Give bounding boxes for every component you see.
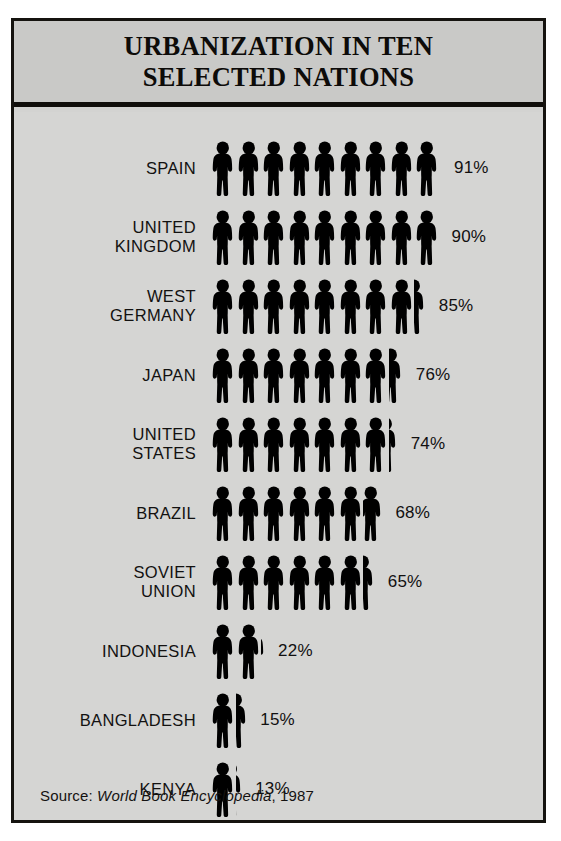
person-figure-icon [363, 347, 389, 403]
person-figure-icon [312, 554, 338, 610]
person-figure-icon [414, 209, 440, 265]
person-figure-icon [236, 623, 262, 679]
chart-row: INDONESIA22% [14, 617, 543, 685]
person-figure-icon [236, 140, 262, 196]
person-figure-icon [287, 278, 313, 334]
source-note: Source: World Book Encyclopedia, 1987 [40, 787, 314, 804]
person-figure-icon [261, 485, 287, 541]
row-figure-group [210, 416, 399, 472]
person-figure-icon [236, 209, 262, 265]
person-figure-icon [363, 140, 389, 196]
person-figure-icon [287, 485, 313, 541]
row-figure-group [210, 347, 404, 403]
person-figure-partial-icon [440, 140, 443, 196]
person-figure-icon [287, 416, 313, 472]
row-value-label: 68% [395, 503, 430, 523]
person-figure-icon [363, 278, 389, 334]
source-prefix: Source: [40, 787, 93, 804]
row-country-label: BANGLADESH [14, 711, 210, 730]
person-figure-icon [210, 623, 236, 679]
person-figure-partial-icon [236, 692, 249, 748]
row-country-label: UNITED KINGDOM [14, 218, 210, 256]
person-figure-icon [363, 416, 389, 472]
person-figure-icon [261, 140, 287, 196]
row-figure-group [210, 485, 383, 541]
chart-row: SPAIN91% [14, 134, 543, 202]
person-figure-icon [338, 140, 364, 196]
person-figure-partial-icon [414, 278, 427, 334]
person-figure-partial-icon [261, 623, 266, 679]
person-figure-icon [287, 140, 313, 196]
person-figure-icon [236, 278, 262, 334]
row-country-label: SPAIN [14, 159, 210, 178]
person-figure-icon [261, 209, 287, 265]
person-figure-icon [210, 347, 236, 403]
row-value-label: 91% [454, 158, 489, 178]
chart-row: UNITED KINGDOM90% [14, 203, 543, 271]
row-value-label: 15% [260, 710, 295, 730]
chart-row: BANGLADESH15% [14, 686, 543, 754]
person-figure-icon [338, 554, 364, 610]
person-figure-icon [210, 485, 236, 541]
row-country-label: SOVIET UNION [14, 563, 210, 601]
row-country-label: BRAZIL [14, 504, 210, 523]
person-figure-partial-icon [389, 347, 404, 403]
person-figure-icon [312, 140, 338, 196]
row-value-label: 65% [388, 572, 423, 592]
person-figure-icon [312, 347, 338, 403]
person-figure-icon [389, 278, 415, 334]
chart-header: URBANIZATION IN TEN SELECTED NATIONS [14, 21, 543, 107]
person-figure-icon [210, 416, 236, 472]
row-figure-group [210, 623, 266, 679]
person-figure-icon [363, 209, 389, 265]
row-country-label: JAPAN [14, 366, 210, 385]
chart-row: UNITED STATES74% [14, 410, 543, 478]
row-value-label: 76% [416, 365, 451, 385]
person-figure-icon [210, 140, 236, 196]
person-figure-icon [338, 485, 364, 541]
page-title: URBANIZATION IN TEN SELECTED NATIONS [114, 31, 444, 92]
row-country-label: UNITED STATES [14, 425, 210, 463]
person-figure-partial-icon [363, 485, 383, 541]
person-figure-icon [261, 416, 287, 472]
chart-row: BRAZIL68% [14, 479, 543, 547]
person-figure-icon [236, 347, 262, 403]
person-figure-icon [261, 278, 287, 334]
row-country-label: WEST GERMANY [14, 287, 210, 325]
person-figure-icon [236, 554, 262, 610]
person-figure-icon [312, 416, 338, 472]
row-figure-group [210, 554, 376, 610]
person-figure-icon [312, 278, 338, 334]
chart-plot-area: SPAIN91%UNITED KINGDOM90%WEST GERMANY85%… [14, 112, 543, 820]
person-figure-icon [236, 416, 262, 472]
person-figure-icon [338, 416, 364, 472]
person-figure-icon [312, 209, 338, 265]
row-figure-group [210, 278, 427, 334]
row-value-label: 74% [411, 434, 446, 454]
source-suffix: , 1987 [271, 787, 314, 804]
person-figure-icon [236, 485, 262, 541]
person-figure-icon [312, 485, 338, 541]
source-title: World Book Encyclopedia [97, 787, 271, 804]
person-figure-icon [210, 209, 236, 265]
chart-row: SOVIET UNION65% [14, 548, 543, 616]
person-figure-icon [210, 692, 236, 748]
person-figure-partial-icon [389, 416, 399, 472]
person-figure-partial-icon [363, 554, 376, 610]
row-country-label: INDONESIA [14, 642, 210, 661]
row-figure-group [210, 209, 440, 265]
person-figure-icon [287, 209, 313, 265]
row-value-label: 22% [278, 641, 313, 661]
person-figure-icon [389, 140, 415, 196]
row-figure-group [210, 692, 248, 748]
chart-row: WEST GERMANY85% [14, 272, 543, 340]
person-figure-icon [338, 209, 364, 265]
person-figure-icon [338, 347, 364, 403]
person-figure-icon [389, 209, 415, 265]
row-value-label: 85% [439, 296, 474, 316]
row-figure-group [210, 140, 442, 196]
person-figure-icon [287, 347, 313, 403]
person-figure-icon [210, 278, 236, 334]
pictogram-chart-poster: URBANIZATION IN TEN SELECTED NATIONS SPA… [11, 18, 546, 823]
row-value-label: 90% [452, 227, 487, 247]
